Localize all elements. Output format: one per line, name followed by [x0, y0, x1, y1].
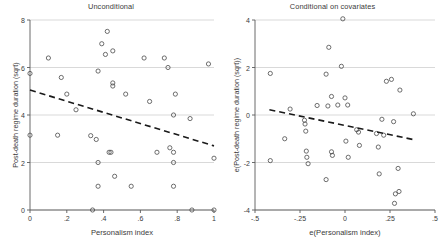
data-point-marker — [288, 107, 292, 111]
data-point-marker — [343, 96, 347, 100]
data-point-marker — [397, 189, 401, 193]
data-point-marker — [206, 62, 210, 66]
data-point-marker — [96, 184, 100, 188]
data-point-marker — [188, 116, 192, 120]
data-point-marker — [346, 103, 350, 107]
x-tick-label: -.5 — [251, 215, 259, 222]
data-point-marker — [357, 143, 361, 147]
data-point-marker — [162, 56, 166, 60]
data-point-marker — [336, 103, 340, 107]
data-point-marker — [305, 155, 309, 159]
data-point-marker — [142, 56, 146, 60]
y-axis-label: e(Post-death regime duration (sqrt)) — [232, 20, 241, 210]
data-point-marker — [89, 134, 93, 138]
x-tick-label: .8 — [174, 215, 180, 222]
data-point-marker — [124, 92, 128, 96]
data-point-marker — [326, 104, 330, 108]
data-point-marker — [346, 155, 350, 159]
data-point-marker — [344, 139, 348, 143]
x-tick-label: .2 — [64, 215, 70, 222]
data-point-marker — [96, 69, 100, 73]
data-point-marker — [171, 150, 175, 154]
regression-scatter-figure: Unconditional 024680.2.4.6.81Personalism… — [0, 0, 443, 252]
x-tick-label: .4 — [101, 215, 107, 222]
data-point-marker — [396, 166, 400, 170]
data-point-marker — [46, 56, 50, 60]
data-point-marker — [268, 71, 272, 75]
data-point-marker — [56, 133, 60, 137]
data-point-marker — [94, 137, 98, 141]
data-point-marker — [100, 42, 104, 46]
data-point-marker — [155, 150, 159, 154]
data-point-marker — [304, 149, 308, 153]
data-point-marker — [315, 103, 319, 107]
x-tick-label: 1 — [212, 215, 216, 222]
data-point-marker — [65, 92, 69, 96]
data-point-marker — [148, 99, 152, 103]
x-tick-label: .6 — [137, 215, 143, 222]
panel-conditional: Conditional on covariates -4-2024-.5-.25… — [222, 0, 443, 252]
x-tick-label: .5 — [432, 215, 438, 222]
data-point-marker — [304, 129, 308, 133]
x-axis-label: e(Personalism index) — [255, 228, 435, 237]
data-point-marker — [376, 145, 380, 149]
data-point-marker — [113, 174, 117, 178]
data-point-marker — [398, 88, 402, 92]
plot-canvas-unconditional — [0, 0, 222, 252]
data-point-marker — [389, 77, 393, 81]
data-point-marker — [324, 178, 328, 182]
data-point-marker — [129, 184, 133, 188]
fit-line — [269, 110, 415, 140]
data-point-marker — [392, 201, 396, 205]
y-axis-label: Post-death regime duration (sqrt) — [11, 20, 20, 210]
x-tick-label: 0 — [343, 215, 347, 222]
x-tick-label: -.25 — [294, 215, 306, 222]
data-point-marker — [327, 45, 331, 49]
data-point-marker — [173, 92, 177, 96]
data-point-marker — [74, 108, 78, 112]
data-point-marker — [171, 184, 175, 188]
data-point-marker — [105, 29, 109, 33]
data-point-marker — [103, 52, 107, 56]
data-point-marker — [377, 172, 381, 176]
data-point-marker — [380, 117, 384, 121]
data-point-marker — [324, 72, 328, 76]
x-tick-label: 0 — [28, 215, 32, 222]
data-point-marker — [111, 49, 115, 53]
data-point-marker — [168, 146, 172, 150]
x-axis-label: Personalism index — [30, 228, 214, 237]
data-point-marker — [283, 137, 287, 141]
data-point-marker — [59, 75, 63, 79]
data-point-marker — [268, 159, 272, 163]
data-point-marker — [329, 94, 333, 98]
data-point-marker — [212, 156, 216, 160]
data-point-marker — [111, 84, 115, 88]
x-tick-label: .25 — [385, 215, 395, 222]
panel-unconditional: Unconditional 024680.2.4.6.81Personalism… — [0, 0, 222, 252]
data-point-marker — [392, 120, 396, 124]
data-point-marker — [384, 79, 388, 83]
